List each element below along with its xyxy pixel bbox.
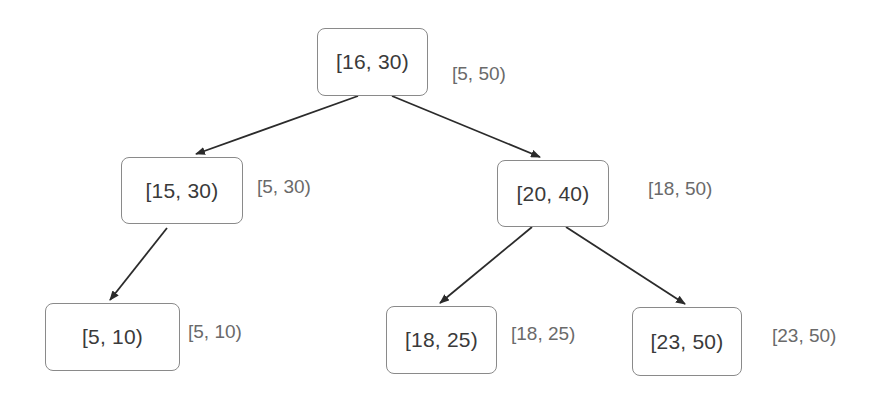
node-interval: [15, 30) <box>146 179 219 203</box>
subtree-range-right-left: [18, 25) <box>511 323 575 345</box>
subtree-range-left: [5, 30) <box>257 176 311 198</box>
tree-node-left: [15, 30) <box>121 157 243 224</box>
edge-left-to-leftleft <box>110 228 167 300</box>
subtree-range-left-left: [5, 10) <box>188 321 242 343</box>
subtree-range-root: [5, 50) <box>452 63 506 85</box>
subtree-range-right-right: [23, 50) <box>772 325 836 347</box>
edge-right-to-rightleft <box>440 227 532 303</box>
node-interval: [20, 40) <box>517 182 590 206</box>
tree-node-right-right: [23, 50) <box>632 307 742 376</box>
tree-node-root: [16, 30) <box>317 28 428 96</box>
tree-node-right-left: [18, 25) <box>386 306 497 374</box>
node-interval: [23, 50) <box>651 330 724 354</box>
interval-tree-diagram: [16, 30) [5, 50) [15, 30) [5, 30) [20, 4… <box>0 0 896 396</box>
node-interval: [16, 30) <box>336 50 409 74</box>
edge-right-to-rightright <box>566 227 685 304</box>
edge-root-to-left <box>196 96 358 154</box>
edge-root-to-right <box>392 96 540 157</box>
tree-node-left-left: [5, 10) <box>45 303 180 371</box>
node-interval: [18, 25) <box>405 328 478 352</box>
subtree-range-right: [18, 50) <box>648 178 712 200</box>
tree-node-right: [20, 40) <box>497 160 609 227</box>
node-interval: [5, 10) <box>82 325 143 349</box>
